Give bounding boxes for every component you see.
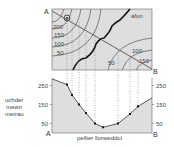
profile-point xyxy=(78,104,80,106)
profile-point xyxy=(137,105,139,107)
profile-point xyxy=(71,94,73,96)
river-label: afon xyxy=(131,13,143,19)
profile-corner-a: A xyxy=(46,130,51,137)
y-tick-label-left: 150 xyxy=(38,102,49,108)
contour-label: 50 xyxy=(108,60,115,66)
map-corner-a: A xyxy=(44,8,49,15)
contour-label: 150 xyxy=(139,58,150,64)
y-tick-label-left: 250 xyxy=(38,83,49,89)
profile-corner-b: B xyxy=(153,131,158,138)
profile-point xyxy=(94,123,96,125)
y-axis-label-line1: uchder xyxy=(5,97,23,103)
profile-point xyxy=(85,112,87,114)
y-tick-label-right: 150 xyxy=(156,102,167,108)
contour-label: 200 xyxy=(53,24,64,30)
profile-chart: 2501505025015050 A B uchder mewn metrau … xyxy=(5,78,167,141)
y-tick-label-right: 50 xyxy=(156,121,163,127)
cross-section-diagram: A B afon 200 150 100 50 100 150 50 25015… xyxy=(0,0,174,147)
profile-point xyxy=(102,126,104,128)
x-axis-label: pellter llorweddol xyxy=(77,135,122,141)
profile-point xyxy=(129,113,131,115)
y-tick-label-left: 50 xyxy=(41,121,48,127)
map-corner-b: B xyxy=(153,68,158,75)
profile-point xyxy=(66,84,68,86)
contour-label: 100 xyxy=(132,48,143,54)
profile-point xyxy=(117,123,119,125)
y-axis-label-line3: metrau xyxy=(5,111,24,117)
y-tick-label-right: 250 xyxy=(156,83,167,89)
contour-label: 100 xyxy=(54,41,65,47)
y-axis-label-line2: mewn xyxy=(6,104,22,110)
contour-label: 150 xyxy=(54,32,65,38)
contour-label: 50 xyxy=(57,50,64,56)
